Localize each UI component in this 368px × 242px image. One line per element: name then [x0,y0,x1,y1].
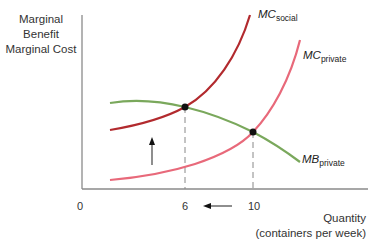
equilibrium-point-private [250,129,257,136]
x-tick-6: 6 [182,200,188,212]
mc-private-label: MCprivate [303,49,347,64]
equilibrium-point-social [182,104,189,111]
x-tick-0: 0 [77,200,83,212]
mb-private-label-sub: private [319,158,345,168]
mb-private-label-main: MB [302,153,320,165]
mb-private-curve [110,101,300,162]
mc-private-label-main: MC [303,49,322,61]
mc-private-curve [110,40,300,180]
x-tick-10: 10 [248,200,260,212]
mc-social-label-main: MC [258,8,277,20]
mc-social-label-sub: social [276,13,298,23]
mc-social-curve [110,15,250,130]
up-arrow-icon [149,137,155,165]
mb-private-label: MBprivate [302,153,345,168]
left-arrow-icon [203,203,232,209]
chart-canvas: 0 6 10 MCsocial MCprivate MBprivate [0,0,368,242]
mc-private-label-sub: private [321,54,347,64]
mc-social-label: MCsocial [258,8,298,23]
